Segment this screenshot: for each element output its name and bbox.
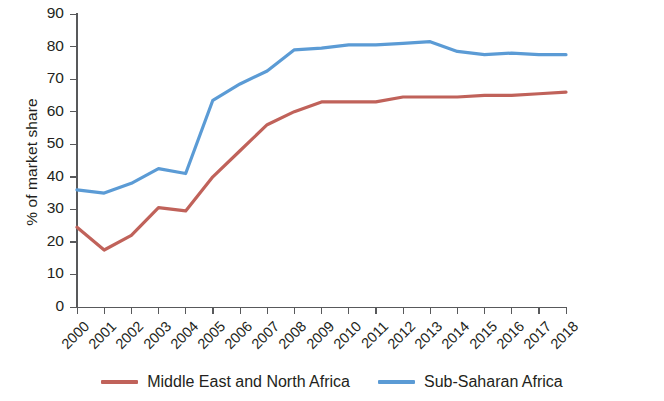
y-tick-label-80: 80 bbox=[20, 38, 64, 54]
chart-legend: Middle East and North Africa Sub-Saharan… bbox=[0, 373, 664, 391]
y-tick-80 bbox=[70, 46, 77, 47]
y-tick-label-30: 30 bbox=[20, 200, 64, 216]
legend-swatch-icon-1 bbox=[378, 380, 415, 385]
x-tick-2010 bbox=[348, 307, 349, 314]
x-tick-2012 bbox=[403, 307, 404, 314]
x-tick-2014 bbox=[457, 307, 458, 314]
y-tick-50 bbox=[70, 144, 77, 145]
series-line-sub-saharan-africa bbox=[77, 42, 566, 193]
x-tick-2008 bbox=[294, 307, 295, 314]
legend-label-0: Middle East and North Africa bbox=[147, 373, 350, 391]
y-tick-40 bbox=[70, 176, 77, 177]
y-tick-70 bbox=[70, 79, 77, 80]
line-chart: % of market share 0102030405060708090 20… bbox=[0, 0, 664, 401]
x-tick-2018 bbox=[566, 307, 567, 314]
y-tick-20 bbox=[70, 241, 77, 242]
y-tick-10 bbox=[70, 274, 77, 275]
y-tick-label-40: 40 bbox=[20, 168, 64, 184]
y-tick-label-60: 60 bbox=[20, 103, 64, 119]
x-tick-2002 bbox=[131, 307, 132, 314]
x-tick-2007 bbox=[267, 307, 268, 314]
y-tick-label-20: 20 bbox=[20, 233, 64, 249]
x-tick-2003 bbox=[158, 307, 159, 314]
series-line-middle-east-and-north-africa bbox=[77, 92, 566, 250]
x-tick-2006 bbox=[240, 307, 241, 314]
x-tick-2000 bbox=[77, 307, 78, 314]
x-tick-2017 bbox=[538, 307, 539, 314]
x-tick-2015 bbox=[484, 307, 485, 314]
x-tick-2013 bbox=[430, 307, 431, 314]
y-tick-60 bbox=[70, 111, 77, 112]
y-axis-line bbox=[76, 13, 78, 308]
legend-label-1: Sub-Saharan Africa bbox=[424, 373, 563, 391]
y-tick-label-0: 0 bbox=[20, 298, 64, 314]
y-tick-30 bbox=[70, 209, 77, 210]
y-tick-label-50: 50 bbox=[20, 135, 64, 151]
legend-item-sub-saharan-africa: Sub-Saharan Africa bbox=[378, 373, 563, 391]
x-tick-2005 bbox=[212, 307, 213, 314]
y-tick-90 bbox=[70, 14, 77, 15]
x-tick-2001 bbox=[104, 307, 105, 314]
y-tick-label-90: 90 bbox=[20, 5, 64, 21]
x-tick-2004 bbox=[185, 307, 186, 314]
x-tick-2011 bbox=[375, 307, 376, 314]
x-tick-2009 bbox=[321, 307, 322, 314]
x-tick-2016 bbox=[511, 307, 512, 314]
legend-swatch-icon-0 bbox=[101, 380, 138, 385]
legend-item-middle-east-and-north-africa: Middle East and North Africa bbox=[101, 373, 350, 391]
y-tick-label-70: 70 bbox=[20, 70, 64, 86]
y-tick-label-10: 10 bbox=[20, 265, 64, 281]
